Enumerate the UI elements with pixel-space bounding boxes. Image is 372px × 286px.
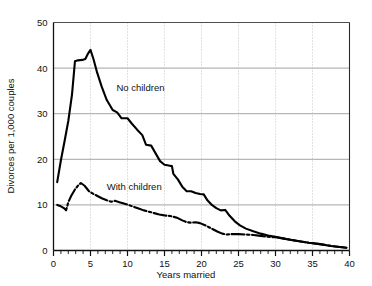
y-tick-label: 20 [37, 154, 48, 165]
series-label-1: No children [116, 82, 164, 93]
divorce-rate-chart: 0510152025303540 01020304050 No children… [0, 0, 372, 286]
x-tick-label: 35 [307, 258, 318, 269]
y-tick-label: 10 [37, 199, 48, 210]
series-label-2: With children [107, 181, 162, 192]
x-tick-label: 25 [233, 258, 244, 269]
x-tick-label: 40 [344, 258, 355, 269]
chart-canvas: 0510152025303540 01020304050 No children… [0, 0, 372, 286]
y-tick-label: 30 [37, 108, 48, 119]
x-tick-label: 5 [88, 258, 93, 269]
x-tick-label: 20 [196, 258, 207, 269]
y-tick-label: 50 [37, 17, 48, 28]
x-axis-title: Years married [157, 269, 216, 280]
x-tick-label: 30 [270, 258, 281, 269]
x-tick-label: 15 [159, 258, 170, 269]
y-axis-title: Divorces per 1,000 couples [5, 78, 16, 193]
x-tick-label: 10 [122, 258, 133, 269]
y-tick-label: 0 [42, 245, 47, 256]
x-tick-label: 0 [51, 258, 56, 269]
y-tick-label: 40 [37, 63, 48, 74]
